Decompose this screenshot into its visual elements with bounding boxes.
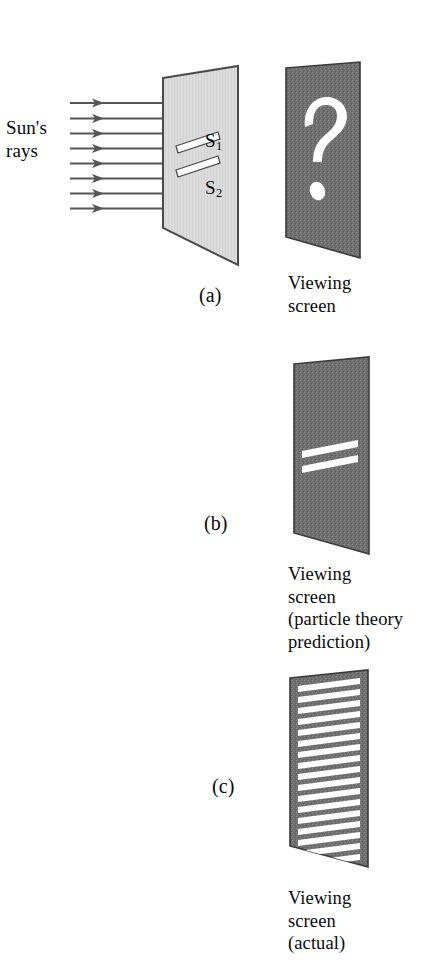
panel-c-letter: (c): [212, 774, 235, 798]
sun-ray-arrowheads-group: [92, 99, 104, 214]
panel-a-letter: (a): [199, 283, 222, 307]
slit-s2-letter: S: [205, 177, 216, 198]
panel-b-group: [294, 357, 369, 554]
slit-s1-subscript: 1: [216, 139, 222, 153]
sun-rays-label: Sun's rays: [6, 116, 47, 162]
slit-s1-letter: S: [205, 130, 216, 151]
panel-c-caption: Viewing screen (actual): [288, 887, 351, 955]
viewing-screen-a: [286, 62, 360, 258]
panel-c-group: [290, 670, 368, 868]
panel-a-caption: Viewing screen: [288, 272, 351, 317]
slit-s2-subscript: 2: [216, 186, 222, 200]
youngs-double-slit-figure: Sun's rays S1 S2 (a) Viewing screen (b) …: [0, 0, 431, 970]
slit-s1-label: S1: [205, 130, 222, 152]
slit-s2-label: S2: [205, 177, 222, 199]
panel-a-group: [70, 62, 360, 265]
panel-b-letter: (b): [204, 511, 228, 535]
panel-b-caption: Viewing screen (particle theory predicti…: [288, 563, 403, 653]
